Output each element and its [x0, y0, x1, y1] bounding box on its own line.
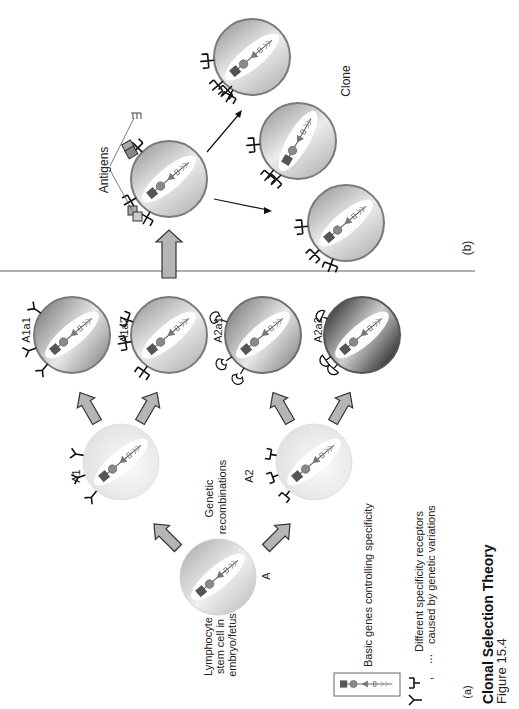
arrow-A1-A1a1: [71, 388, 105, 427]
antigens-label: Antigens: [97, 147, 111, 194]
legend-genes-box: [334, 673, 400, 696]
cell-A1a2: [117, 297, 207, 382]
stem-cell-label: A: [260, 572, 272, 580]
arrow-A-A2: [259, 517, 297, 555]
genetic-recombinations-label: Genetic recombinations: [203, 459, 228, 534]
clone-cell-2: [246, 103, 336, 185]
svg-text:...: ...: [421, 654, 435, 664]
legend-receptor-icons: , ...: [409, 654, 435, 705]
arrow-A-A1: [147, 517, 185, 555]
clonal-selection-diagram: Antigens Clon: [0, 0, 519, 709]
cell-A1: [70, 424, 159, 504]
cell-A2a2: [314, 297, 400, 377]
figure-subtitle: Figure 15.4: [494, 638, 509, 704]
arrow-A2-A2a1: [264, 388, 298, 427]
cell-A2: [265, 424, 352, 503]
panel-a: A1a1 A1a2 A2a1 A2a2: [20, 297, 400, 677]
cell-label-A1a2: A1a2: [118, 317, 130, 343]
panel-a-label: (a): [461, 685, 473, 698]
legend-genes-label: Basic genes controlling specificity: [362, 503, 374, 667]
clone-cell-1: [200, 19, 290, 106]
panel-b: Antigens Clon: [97, 19, 474, 274]
cell-label-A1: A1: [70, 469, 82, 482]
arrow-A1-A1a2: [131, 388, 165, 427]
svg-text:,: ,: [422, 677, 434, 680]
cell-A1a1: [22, 297, 110, 377]
clone-cell-3: [294, 185, 384, 274]
stem-cell-A: [180, 539, 256, 615]
panel-b-label: (b): [460, 241, 474, 256]
cell-label-A2a2: A2a2: [312, 317, 324, 343]
arrow-A2-A2a2: [324, 388, 358, 427]
legend: Basic genes controlling specificity , ..…: [334, 503, 437, 705]
legend-receptors-label: Different specificity receptors caused b…: [413, 505, 437, 652]
cell-label-A2: A2: [243, 469, 255, 482]
cell-label-A1a1: A1a1: [20, 317, 32, 343]
cell-label-A2a1: A2a1: [212, 317, 224, 343]
stem-cell-caption: Lymphocyte stem cell in embryo/fetus: [202, 613, 238, 677]
clone-label: Clone: [339, 65, 353, 97]
